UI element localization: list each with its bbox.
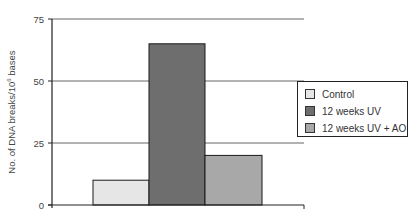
y-axis-label: No. of DNA breaks/106 bases — [6, 19, 20, 205]
bar-12-weeks-uv — [149, 44, 205, 205]
y-tick-label: 75 — [33, 14, 44, 25]
bar-control — [93, 180, 149, 205]
legend-label: 12 weeks UV — [322, 106, 381, 117]
bar-12-weeks-uv-ao — [205, 155, 262, 205]
y-tick-label: 25 — [33, 138, 44, 149]
y-tick-label: 50 — [33, 76, 44, 87]
legend-label: 12 weeks UV + AO — [322, 123, 406, 134]
y-tick-label: 0 — [39, 200, 44, 211]
bars — [93, 44, 262, 205]
legend-label: Control — [322, 89, 354, 100]
legend-item-control: Control — [305, 87, 354, 101]
legend: Control 12 weeks UV 12 weeks UV + AO — [297, 81, 408, 137]
legend-item-uv: 12 weeks UV — [305, 104, 381, 118]
y-tick-labels: 0255075 — [33, 14, 44, 211]
legend-swatch — [305, 89, 315, 99]
legend-swatch — [305, 106, 315, 116]
legend-item-uv-ao: 12 weeks UV + AO — [305, 121, 406, 135]
legend-swatch — [305, 123, 315, 133]
